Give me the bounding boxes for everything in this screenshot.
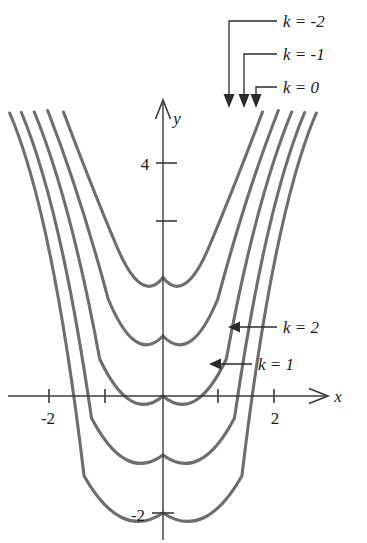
callout-leaders-top <box>224 21 278 108</box>
callout-label-k-neg1: k = -1 <box>283 45 325 64</box>
arrowhead-k-1 <box>209 359 221 370</box>
leader-k-neg1 <box>244 54 277 100</box>
callout-label-k-neg2: k = -2 <box>283 12 325 31</box>
y-tick-label-4: 4 <box>141 155 150 174</box>
chart-canvas: x y -2 2 4 -2 k = -2 k = -1 <box>0 0 367 543</box>
arrowhead-k-0 <box>251 94 262 108</box>
callout-label-k-2: k = 2 <box>283 318 320 337</box>
y-tick-label-neg2: -2 <box>131 506 145 525</box>
parabola-family-figure: x y -2 2 4 -2 k = -2 k = -1 <box>0 0 367 543</box>
y-axis-label: y <box>171 109 181 128</box>
x-tick-label-neg2: -2 <box>41 409 55 428</box>
x-tick-label-pos2: 2 <box>271 409 280 428</box>
x-axis-label: x <box>333 387 342 406</box>
callout-label-k-1: k = 1 <box>258 355 294 374</box>
arrowhead-k-neg1 <box>239 94 250 108</box>
axes-group <box>8 100 328 540</box>
callout-label-k-0: k = 0 <box>283 78 320 97</box>
arrowhead-k-neg2 <box>224 94 235 108</box>
leader-k-neg2 <box>229 21 277 100</box>
